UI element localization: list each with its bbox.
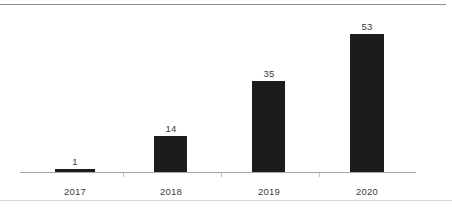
plot-area: 1 2017 14 2018 35 2019 53 2020 <box>0 10 452 175</box>
bar-2017 <box>55 169 95 172</box>
bar-value-label: 1 <box>55 156 95 167</box>
axis-tick <box>221 173 222 177</box>
category-label-2019: 2019 <box>249 186 289 197</box>
page-rule-bottom <box>0 200 452 201</box>
bar-chart-figure: 1 2017 14 2018 35 2019 53 2020 <box>0 0 452 210</box>
category-label-2018: 2018 <box>151 186 191 197</box>
category-label-2020: 2020 <box>347 186 387 197</box>
category-label-2017: 2017 <box>55 186 95 197</box>
bar-value-label: 14 <box>151 123 191 134</box>
bar-value-label: 53 <box>347 21 387 32</box>
page-rule-top <box>0 4 446 5</box>
bar-2019 <box>252 81 285 172</box>
category-axis-line <box>20 172 416 173</box>
bar-2018 <box>154 136 187 172</box>
bar-value-label: 35 <box>249 68 289 79</box>
axis-tick <box>319 173 320 177</box>
bar-2020 <box>350 34 384 172</box>
axis-tick <box>123 173 124 177</box>
